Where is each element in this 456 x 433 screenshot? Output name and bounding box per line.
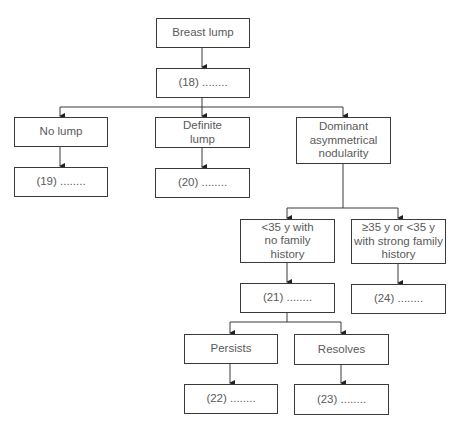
node-definite-lump: Definite lump (155, 117, 250, 148)
node-label: Dominant asymmetrical nodularity (301, 120, 386, 161)
node-label: Persists (211, 342, 252, 356)
node-label: (22) ........ (206, 392, 255, 406)
node-blank-24: (24) ........ (351, 284, 446, 314)
node-resolves: Resolves (294, 334, 389, 365)
node-under-35: <35 y with no family history (240, 219, 335, 263)
node-label: (23) ........ (317, 393, 366, 407)
node-label: Resolves (318, 343, 365, 357)
node-label: ≥35 y or <35 y with strong family histor… (354, 221, 443, 262)
node-label: Breast lump (172, 26, 233, 40)
node-label: No lump (40, 125, 83, 139)
connector-lines (0, 0, 456, 433)
node-blank-18: (18) ........ (156, 68, 250, 98)
node-over-35: ≥35 y or <35 y with strong family histor… (351, 219, 446, 264)
node-blank-20: (20) ........ (155, 168, 250, 198)
node-label: (18) ........ (178, 76, 227, 90)
node-label: Definite lump (170, 119, 235, 146)
node-label: (19) ........ (36, 175, 85, 189)
node-no-lump: No lump (14, 117, 108, 147)
node-label: (20) ........ (178, 176, 227, 190)
node-blank-21: (21) ........ (240, 283, 335, 313)
node-persists: Persists (184, 334, 278, 364)
node-label: (24) ........ (374, 292, 423, 306)
node-blank-19: (19) ........ (14, 167, 108, 197)
node-blank-22: (22) ........ (184, 384, 278, 414)
node-blank-23: (23) ........ (294, 384, 389, 415)
node-label: (21) ........ (263, 291, 312, 305)
node-breast-lump: Breast lump (156, 18, 250, 48)
node-label: <35 y with no family history (255, 221, 320, 262)
node-dominant-nodularity: Dominant asymmetrical nodularity (296, 117, 391, 164)
